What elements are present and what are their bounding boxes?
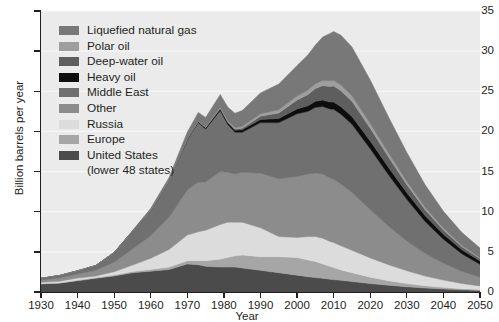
x-tick xyxy=(296,292,297,298)
legend-swatch-icon xyxy=(59,26,79,35)
legend-item[interactable]: United States xyxy=(59,148,197,164)
y-tick xyxy=(34,171,40,172)
legend-swatch-icon xyxy=(59,42,79,51)
x-tick xyxy=(187,292,188,298)
legend-item[interactable]: Liquefied natural gas xyxy=(59,23,197,39)
x-tick xyxy=(40,292,41,298)
y-tick xyxy=(34,211,40,212)
legend-item[interactable]: Polar oil xyxy=(59,39,197,55)
legend-item[interactable]: Other xyxy=(59,101,197,117)
legend-item[interactable]: Russia xyxy=(59,117,197,133)
legend: Liquefied natural gasPolar oilDeep-water… xyxy=(59,23,197,179)
legend-swatch-icon xyxy=(59,73,79,82)
y-tick xyxy=(34,131,40,132)
legend-label: Liquefied natural gas xyxy=(87,23,197,39)
legend-label: Other xyxy=(87,101,117,117)
legend-item[interactable]: Europe xyxy=(59,132,197,148)
y-axis-line xyxy=(40,10,41,293)
y-tick xyxy=(34,251,40,252)
legend-label: Middle East xyxy=(87,85,149,101)
legend-label: Russia xyxy=(87,117,123,133)
legend-label: Deep-water oil xyxy=(87,54,163,70)
y-tick xyxy=(34,91,40,92)
y-tick-label: 5 xyxy=(466,246,494,258)
legend-label: United States xyxy=(87,148,158,164)
y-tick-label: 10 xyxy=(466,206,494,218)
y-tick-label: 25 xyxy=(466,85,494,97)
x-tick xyxy=(223,292,224,298)
legend-swatch-icon xyxy=(59,88,79,97)
legend-swatch-icon xyxy=(59,120,79,129)
y-tick xyxy=(34,10,40,11)
legend-sublabel: (lower 48 states) xyxy=(87,163,197,179)
legend-item[interactable]: Heavy oil xyxy=(59,70,197,86)
x-tick xyxy=(479,292,480,298)
legend-label: Heavy oil xyxy=(87,70,136,86)
y-tick-label: 20 xyxy=(466,125,494,137)
y-tick-label: 15 xyxy=(466,166,494,178)
x-tick xyxy=(333,292,334,298)
x-tick xyxy=(260,292,261,298)
y-tick-label: 30 xyxy=(466,45,494,57)
legend-swatch-icon xyxy=(59,151,79,160)
legend-swatch-icon xyxy=(59,135,79,144)
x-tick xyxy=(406,292,407,298)
x-axis-title: Year xyxy=(0,310,494,322)
legend-swatch-icon xyxy=(59,57,79,66)
y-tick xyxy=(34,291,40,292)
legend-label: Polar oil xyxy=(87,39,130,55)
x-tick xyxy=(150,292,151,298)
y-axis-title: Billion barrels per year xyxy=(13,63,25,213)
x-tick xyxy=(114,292,115,298)
legend-item[interactable]: Deep-water oil xyxy=(59,54,197,70)
legend-label: Europe xyxy=(87,132,125,148)
x-tick xyxy=(443,292,444,298)
legend-item[interactable]: Middle East xyxy=(59,85,197,101)
legend-swatch-icon xyxy=(59,104,79,113)
x-tick xyxy=(77,292,78,298)
y-tick-label: 35 xyxy=(466,5,494,17)
x-tick xyxy=(370,292,371,298)
y-tick xyxy=(34,50,40,51)
